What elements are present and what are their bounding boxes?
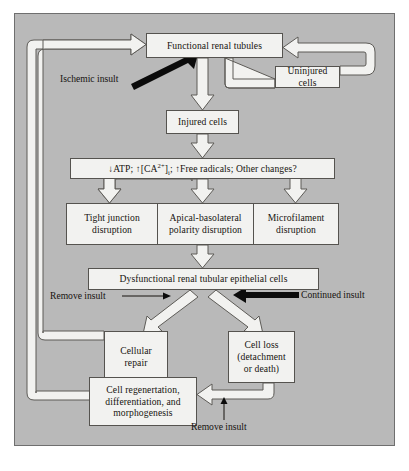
node-label-line1: Apical-basolateral bbox=[169, 212, 241, 224]
caption-remove-insult-bottom: Remove insult bbox=[191, 421, 247, 432]
node-label-line3: morphogenesis bbox=[113, 407, 172, 419]
node-label: Dysfunctional renal tubular epithelial c… bbox=[120, 273, 288, 285]
node-label-line1: Tight junction bbox=[84, 212, 140, 224]
node-microfilament-disruption[interactable]: Microfilament disruption bbox=[253, 203, 339, 245]
node-functional-renal-tubules[interactable]: Functional renal tubules bbox=[146, 33, 283, 58]
node-label-line2: polarity disruption bbox=[169, 224, 242, 236]
node-label: Injured cells bbox=[178, 116, 227, 128]
caption-remove-insult-left: Remove insult bbox=[50, 290, 106, 301]
node-label-line2: differentiation, and bbox=[105, 396, 180, 408]
node-label-line2: repair bbox=[125, 357, 148, 369]
caption-label: Continued insult bbox=[301, 289, 365, 300]
node-label: Uninjured cells bbox=[280, 65, 335, 88]
node-label-line1: Cell loss bbox=[244, 339, 278, 351]
caption-continued-insult: Continued insult bbox=[301, 289, 365, 300]
node-injured-cells[interactable]: Injured cells bbox=[166, 110, 239, 134]
node-label-line2: (detachment bbox=[237, 351, 286, 363]
biochem-superscript: 2+ bbox=[157, 161, 164, 168]
node-tight-junction-disruption[interactable]: Tight junction disruption bbox=[66, 203, 157, 245]
node-label-line1: Microfilament bbox=[268, 212, 325, 224]
caption-label: Remove insult bbox=[50, 290, 106, 301]
node-label-line1: Cellular bbox=[120, 345, 152, 357]
diagram-canvas: .hw{fill:#f2f2f0;stroke:#5d5b57;stroke-w… bbox=[0, 0, 409, 471]
node-label-line2: disruption bbox=[92, 224, 132, 236]
node-cellular-repair[interactable]: Cellular repair bbox=[104, 331, 168, 383]
caption-label: Remove insult bbox=[191, 421, 247, 432]
node-label-line3: or death) bbox=[244, 363, 279, 375]
node-label: Functional renal tubules bbox=[167, 40, 262, 52]
node-cell-regeneration[interactable]: Cell regenertation, differentiation, and… bbox=[89, 377, 197, 426]
node-label-line2: disruption bbox=[276, 224, 316, 236]
node-cell-loss[interactable]: Cell loss (detachment or death) bbox=[228, 331, 295, 383]
node-biochemical-changes[interactable]: ↓ATP; ↑[CA2+]i; ↑Free radicals; Other ch… bbox=[70, 158, 335, 179]
biochem-post: ; ↑Free radicals; Other changes? bbox=[170, 163, 297, 174]
node-label-line1: Cell regenertation, bbox=[106, 384, 179, 396]
caption-label: Ischemic insult bbox=[60, 73, 118, 84]
node-label-biochem: ↓ATP; ↑[CA2+]i; ↑Free radicals; Other ch… bbox=[108, 163, 297, 175]
node-apical-basolateral-polarity-disruption[interactable]: Apical-basolateral polarity disruption bbox=[157, 203, 253, 245]
biochem-pre: ↓ATP; ↑[CA bbox=[108, 163, 157, 174]
caption-ischemic-insult: Ischemic insult bbox=[60, 73, 118, 84]
node-uninjured-cells[interactable]: Uninjured cells bbox=[275, 66, 340, 88]
node-dysfunctional-epithelial-cells[interactable]: Dysfunctional renal tubular epithelial c… bbox=[88, 268, 319, 290]
